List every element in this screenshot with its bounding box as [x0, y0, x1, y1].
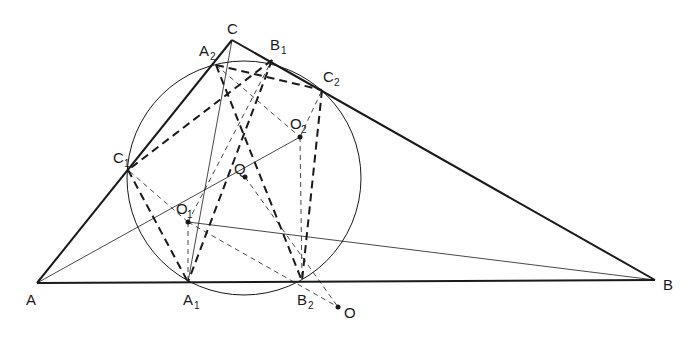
label-o1: O — [176, 200, 188, 217]
line-a2-c2 — [216, 65, 322, 90]
label-o1-sub: 1 — [187, 209, 193, 220]
label-o2: O — [290, 115, 302, 132]
point-o2 — [298, 135, 303, 140]
thin-solid-lines — [37, 40, 655, 283]
label-a2-sub: 2 — [210, 51, 216, 62]
side-ab — [37, 280, 655, 283]
bold-dashed-lines — [128, 60, 322, 282]
line-o2-b2 — [300, 137, 302, 281]
label-a1-sub: 1 — [194, 300, 200, 311]
label-c1: C — [113, 149, 124, 166]
labels: A B C A 1 A 2 B 1 B 2 C 1 C 2 O 1 O 2 Q … — [26, 20, 673, 321]
label-o2-sub: 2 — [301, 124, 307, 135]
label-c2-sub: 2 — [334, 77, 340, 88]
triangle-abc — [37, 40, 655, 283]
point-o1 — [186, 220, 191, 225]
line-a-o2 — [37, 137, 300, 283]
label-a: A — [26, 291, 36, 308]
side-ca — [37, 40, 232, 283]
label-o: O — [344, 304, 356, 321]
line-q-b2 — [245, 177, 338, 307]
line-o1-o — [188, 222, 338, 307]
geometry-diagram: A B C A 1 A 2 B 1 B 2 C 1 C 2 O 1 O 2 Q … — [0, 0, 692, 338]
label-b1-sub: 1 — [281, 45, 287, 56]
label-c: C — [227, 20, 238, 37]
label-c1-sub: 1 — [124, 158, 130, 169]
label-b1: B — [270, 36, 280, 53]
label-c2: C — [323, 68, 334, 85]
line-c2-b2 — [302, 90, 322, 281]
points — [186, 135, 341, 310]
label-a2: A — [199, 42, 209, 59]
label-b: B — [663, 276, 673, 293]
label-b2: B — [297, 291, 307, 308]
label-b2-sub: 2 — [308, 300, 314, 311]
side-bc — [232, 40, 655, 280]
label-q: Q — [234, 160, 246, 177]
line-o1-b — [188, 222, 655, 280]
line-c-a1 — [188, 40, 232, 282]
point-o — [336, 305, 341, 310]
line-o1-b1 — [188, 60, 272, 222]
label-a1: A — [183, 291, 193, 308]
